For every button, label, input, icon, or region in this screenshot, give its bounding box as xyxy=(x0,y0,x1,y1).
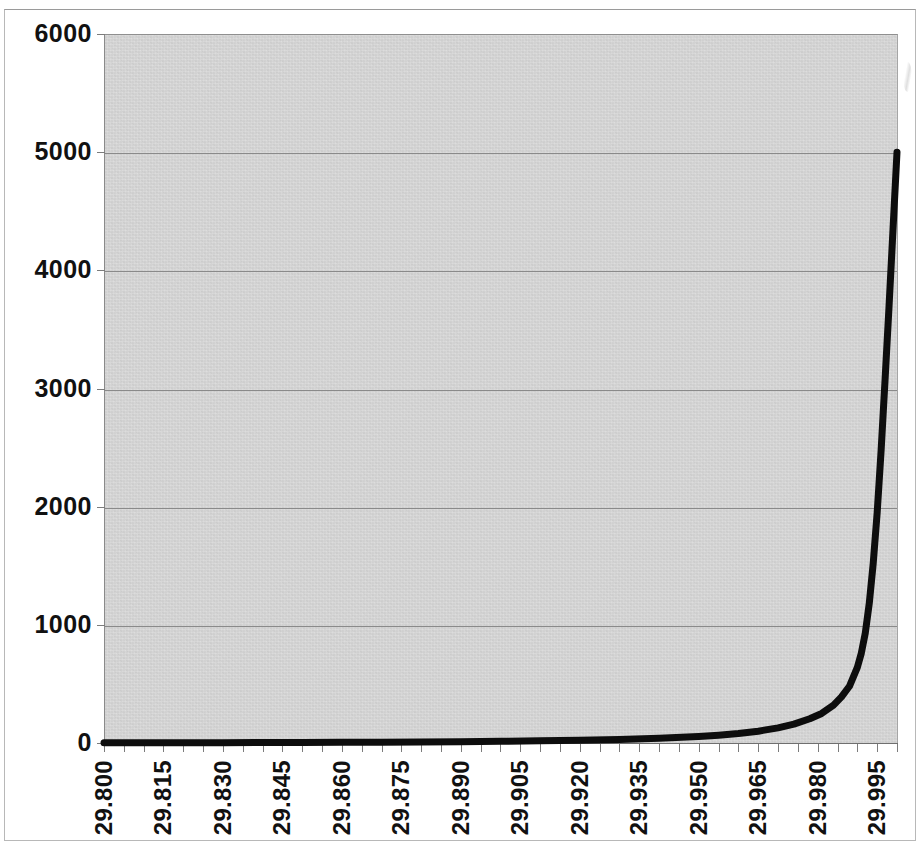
y-axis-tick-label: 5000 xyxy=(0,139,92,164)
x-axis-tick-label-text: 29.860 xyxy=(330,760,354,835)
y-axis-tick-label: 4000 xyxy=(0,257,92,282)
x-axis-tick-label-text: 29.965 xyxy=(746,760,770,835)
y-axis-tick-label: 3000 xyxy=(0,376,92,401)
x-axis-tick-label-text: 29.995 xyxy=(865,760,889,835)
data-series-layer xyxy=(104,34,897,744)
y-axis-tick-label: 1000 xyxy=(0,612,92,637)
x-axis-tick xyxy=(719,744,720,752)
x-axis-tick xyxy=(798,744,799,752)
x-axis-tick xyxy=(758,744,759,752)
x-axis-tick xyxy=(580,744,581,752)
x-axis-tick-label-text: 29.815 xyxy=(151,760,175,835)
x-axis-tick-label-text: 29.920 xyxy=(568,760,592,835)
x-axis-tick xyxy=(877,744,878,752)
y-axis-tick-labels: 6000500040003000200010000 xyxy=(0,0,92,848)
x-axis-tick xyxy=(461,744,462,752)
x-axis-tick-label-text: 29.950 xyxy=(687,760,711,835)
x-axis-tick xyxy=(659,744,660,752)
x-axis-tick xyxy=(639,744,640,752)
x-axis-tick xyxy=(699,744,700,752)
x-axis-tick xyxy=(679,744,680,752)
x-axis-tick-label-text: 29.890 xyxy=(449,760,473,835)
y-axis-tick-label: 0 xyxy=(0,730,92,755)
x-axis-tick xyxy=(778,744,779,752)
x-axis-tick xyxy=(560,744,561,752)
x-axis-tick-label-text: 29.845 xyxy=(270,760,294,835)
x-axis-tick xyxy=(540,744,541,752)
x-axis-tick-label-text: 29.980 xyxy=(806,760,830,835)
x-axis-tick xyxy=(838,744,839,752)
y-axis-tick-label: 2000 xyxy=(0,494,92,519)
line-chart: 6000500040003000200010000 29.80029.81529… xyxy=(0,0,920,848)
x-axis-tick xyxy=(818,744,819,752)
x-axis-tick xyxy=(520,744,521,752)
x-axis-tick xyxy=(857,744,858,752)
x-axis-tick xyxy=(500,744,501,752)
x-axis-tick xyxy=(600,744,601,752)
y-axis-tick-label: 6000 xyxy=(0,21,92,46)
x-axis-tick-label-text: 29.905 xyxy=(508,760,532,835)
scanned-chart-page: 6000500040003000200010000 29.80029.81529… xyxy=(0,0,920,848)
data-series-curve xyxy=(104,152,897,743)
x-axis-tick xyxy=(897,744,898,752)
x-axis-tick xyxy=(481,744,482,752)
x-axis-tick-label-text: 29.875 xyxy=(389,760,413,835)
x-axis-tick xyxy=(619,744,620,752)
x-axis-tick xyxy=(738,744,739,752)
x-axis-tick-label-text: 29.800 xyxy=(92,760,116,835)
x-axis-tick-label-text: 29.935 xyxy=(627,760,651,835)
x-axis-tick-label-text: 29.830 xyxy=(211,760,235,835)
